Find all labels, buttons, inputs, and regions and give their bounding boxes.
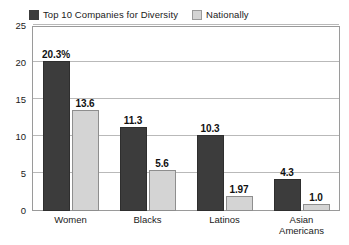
gridline <box>33 172 339 173</box>
x-axis-category-label: Women <box>54 214 87 225</box>
x-axis-category-label: Latinos <box>209 214 240 225</box>
legend-label-nationally: Nationally <box>206 10 249 20</box>
y-axis-tick-label: 0 <box>21 206 26 216</box>
legend-swatch-light <box>192 10 202 20</box>
bar-chart: Top 10 Companies for Diversity Nationall… <box>0 0 349 245</box>
gridline <box>33 135 339 136</box>
y-axis-tick-label: 25 <box>15 21 26 31</box>
x-axis-category-label: Blacks <box>134 214 162 225</box>
legend-swatch-dark <box>29 10 39 20</box>
gridline <box>33 61 339 62</box>
legend-label-top10: Top 10 Companies for Diversity <box>43 10 178 20</box>
chart-legend: Top 10 Companies for Diversity Nationall… <box>29 8 249 22</box>
gridline <box>33 24 339 25</box>
legend-item-top10: Top 10 Companies for Diversity <box>29 10 178 20</box>
gridline <box>33 98 339 99</box>
y-axis-tick-label: 15 <box>15 95 26 105</box>
plot-area <box>32 26 340 211</box>
y-axis-tick-label: 5 <box>21 169 26 179</box>
y-axis-tick-label: 20 <box>15 58 26 68</box>
y-axis: 0510152025 <box>0 26 30 211</box>
y-axis-tick-label: 10 <box>15 132 26 142</box>
legend-item-nationally: Nationally <box>192 10 249 20</box>
x-axis: WomenBlacksLatinosAsian Americans <box>32 212 340 245</box>
gridlines <box>33 27 339 210</box>
x-axis-category-label: Asian Americans <box>279 214 324 236</box>
